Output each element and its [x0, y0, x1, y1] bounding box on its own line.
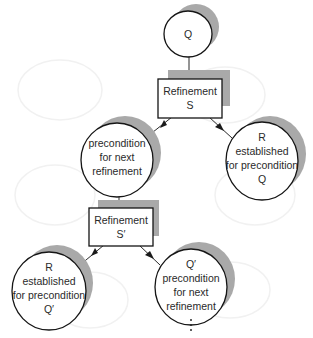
node-r-established-prime-line-4: Q′ [44, 303, 54, 315]
node-r-established-prime-line-3: for precondition [13, 289, 86, 301]
node-q-prime-line-3: for next [173, 286, 208, 298]
arrowhead-icon [91, 248, 98, 256]
node-refinement-s-prime-line-1: Refinement [94, 214, 148, 226]
node-precondition-line-2: for next [99, 151, 134, 163]
node-r-established-prime-line-2: established [22, 275, 75, 287]
node-refinement-s-line-2: S [186, 99, 193, 111]
node-q-prime-line-1: Q′ [186, 258, 196, 270]
node-r-established-prime-line-1: R [45, 261, 53, 273]
node-refinement-s: Refinement S [158, 70, 230, 118]
node-precondition-line-3: refinement [92, 165, 142, 177]
node-r-established-line-4: Q [258, 173, 266, 185]
node-r-established-line-1: R [258, 131, 266, 143]
node-q-prime-line-2: precondition [162, 272, 219, 284]
node-precondition-line-1: precondition [88, 137, 145, 149]
node-q-label: Q [184, 28, 192, 40]
node-q: Q [164, 4, 219, 57]
node-q-prime-line-4: refinement [166, 300, 216, 312]
node-q-prime-precondition: Q′ precondition for next refinement [155, 242, 235, 325]
node-r-established-line-3: for precondition [226, 159, 299, 171]
node-refinement-s-line-1: Refinement [163, 85, 217, 97]
node-refinement-s-prime-line-2: S′ [117, 228, 126, 240]
refinement-diagram: Q Refinement S precondition for next ref… [0, 0, 313, 338]
node-precondition-next: precondition for next refinement [81, 116, 161, 197]
node-r-established-line-2: established [235, 145, 288, 157]
node-r-established-q-prime: R established for precondition Q′ [12, 245, 93, 330]
node-refinement-s-prime: Refinement S′ [89, 200, 159, 246]
